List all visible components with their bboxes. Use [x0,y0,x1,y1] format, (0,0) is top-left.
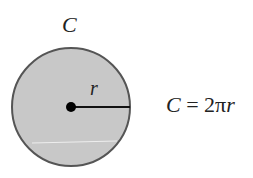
center-dot [66,102,76,112]
formula-var: r [226,92,235,117]
radius-label: r [90,77,98,100]
formula-lhs: C [166,92,181,117]
formula-coef: 2π [204,92,226,117]
circle-label: C [62,12,77,38]
circle-circumference-diagram: C r C = 2πr [0,0,253,178]
circle-figure [0,0,253,178]
formula-equals: = [181,92,204,117]
circumference-formula: C = 2πr [166,92,235,118]
